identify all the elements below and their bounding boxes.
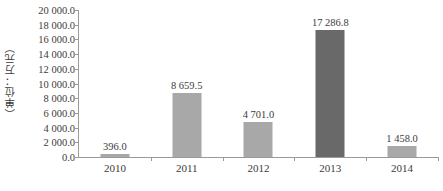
bar-value-label: 17 286.8 — [312, 17, 349, 28]
bar-group: 396.0 — [79, 10, 151, 157]
y-axis-tick-label: 6 000.0 — [18, 108, 75, 119]
y-axis-tick-mark — [74, 142, 78, 143]
y-axis-tick-labels: 20 000.018 000.016 000.014 000.012 000.0… — [18, 5, 75, 163]
y-axis-tick-mark — [74, 157, 78, 158]
x-axis-tick-mark — [294, 157, 295, 161]
bar-chart-figure: （单位：万元） 20 000.018 000.016 000.014 000.0… — [0, 0, 443, 191]
x-axis-tick-label-2014: 2014 — [366, 162, 438, 175]
bar-2012[interactable] — [244, 122, 273, 157]
x-axis-line — [78, 157, 438, 158]
bar-value-label: 4 701.0 — [243, 109, 275, 120]
bar-group: 1 458.0 — [366, 10, 438, 157]
y-axis-title-label: （单位：万元） — [2, 42, 17, 119]
x-axis-tick-mark — [438, 157, 439, 161]
bar-group: 17 286.8 — [294, 10, 366, 157]
bar-group: 4 701.0 — [223, 10, 295, 157]
x-axis-tick-label-2010: 2010 — [79, 162, 151, 175]
y-axis-tick-mark — [74, 113, 78, 114]
y-axis-tick-label: 14 000.0 — [18, 49, 75, 60]
bar-2013[interactable] — [316, 30, 345, 157]
x-axis-tick-mark — [151, 157, 152, 161]
x-axis-tick-label-2013: 2013 — [294, 162, 366, 175]
bar-2010[interactable] — [100, 154, 129, 157]
y-axis-tick-label: 12 000.0 — [18, 64, 75, 75]
y-axis-tick-mark — [74, 25, 78, 26]
x-axis-tick-label-2011: 2011 — [151, 162, 223, 175]
y-axis-tick-label: 20 000.0 — [18, 5, 75, 16]
bar-value-label: 8 659.5 — [171, 80, 203, 91]
x-axis-tick-mark — [366, 157, 367, 161]
bar-2014[interactable] — [388, 146, 417, 157]
y-axis-tick-mark — [74, 84, 78, 85]
bar-value-label: 1 458.0 — [386, 133, 418, 144]
y-axis-title: （单位：万元） — [0, 0, 18, 160]
y-axis-tick-mark — [74, 54, 78, 55]
y-axis-tick-label: 0.0 — [18, 152, 75, 163]
bar-group: 8 659.5 — [151, 10, 223, 157]
y-axis-tick-label: 2 000.0 — [18, 137, 75, 148]
y-axis-tick-label: 18 000.0 — [18, 20, 75, 31]
bar-value-label: 396.0 — [103, 141, 127, 152]
y-axis-tick-label: 16 000.0 — [18, 34, 75, 45]
x-axis-tick-label-2012: 2012 — [223, 162, 295, 175]
y-axis-tick-mark — [74, 69, 78, 70]
y-axis-tick-mark — [74, 10, 78, 11]
bar-2011[interactable] — [172, 93, 201, 157]
y-axis-tick-mark — [74, 98, 78, 99]
plot-area: 396.08 659.54 701.017 286.81 458.0 — [79, 10, 438, 157]
y-axis-tick-label: 10 000.0 — [18, 79, 75, 90]
x-axis-tick-mark — [223, 157, 224, 161]
y-axis-tick-label: 4 000.0 — [18, 123, 75, 134]
y-axis-tick-mark — [74, 128, 78, 129]
x-axis-tick-labels: 20102011201220132014 — [79, 162, 438, 182]
y-axis-tick-mark — [74, 39, 78, 40]
y-axis-tick-label: 8 000.0 — [18, 93, 75, 104]
